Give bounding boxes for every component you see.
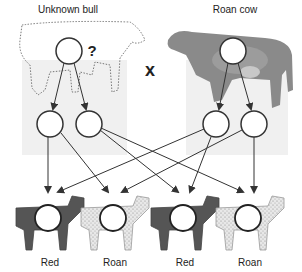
offspring-label-1: Red bbox=[30, 257, 70, 268]
cow-gamete-circle-1 bbox=[203, 111, 229, 137]
offspring-genotype-circle bbox=[100, 205, 126, 231]
offspring-label-2: Roan bbox=[95, 257, 135, 268]
left-panel bbox=[22, 60, 127, 155]
roan-cow-title: Roan cow bbox=[200, 4, 270, 15]
bull-gamete-circle-2 bbox=[76, 111, 102, 137]
bull-gamete-circle-1 bbox=[37, 111, 63, 137]
cow-genotype-circle bbox=[220, 38, 246, 64]
offspring-calf-2 bbox=[81, 196, 149, 250]
offspring-calf-1 bbox=[16, 196, 84, 250]
offspring-genotype-circle bbox=[235, 205, 261, 231]
cross-symbol: x bbox=[140, 60, 160, 81]
cow-gamete-circle-2 bbox=[241, 111, 267, 137]
offspring-genotype-circle bbox=[35, 205, 61, 231]
unknown-bull-title: Unknown bull bbox=[28, 4, 108, 15]
genetics-cross-diagram: Unknown bull Roan cow ? x Red Roan Red R… bbox=[0, 0, 302, 272]
unknown-question-mark: ? bbox=[86, 42, 98, 59]
offspring-label-3: Red bbox=[165, 257, 205, 268]
offspring-calf-3 bbox=[151, 196, 219, 250]
offspring-calf-4 bbox=[216, 196, 284, 250]
diagram-canvas bbox=[0, 0, 302, 272]
offspring-label-4: Roan bbox=[230, 257, 270, 268]
offspring-genotype-circle bbox=[170, 205, 196, 231]
bull-genotype-circle bbox=[56, 38, 82, 64]
